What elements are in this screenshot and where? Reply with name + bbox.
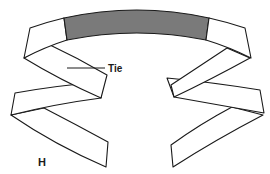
top-band-shaded-center xyxy=(64,10,209,40)
right-lower-strip xyxy=(171,107,263,167)
tie-label: Tie xyxy=(108,63,123,74)
figure-label: H xyxy=(38,156,46,168)
left-lower-strip xyxy=(11,108,108,167)
band-diagram: Tie H xyxy=(0,0,270,174)
